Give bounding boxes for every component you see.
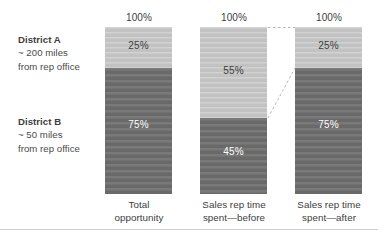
annotation-district-a-line2: ~ 200 miles	[18, 46, 104, 59]
annotation-district-a-line3: from rep office	[18, 60, 104, 73]
bar-caption-1-line1: Total	[91, 198, 187, 211]
bar-caption-2-line2: spent—before	[186, 211, 282, 224]
bar-2-label-district-b: 45%	[200, 146, 267, 157]
bar-caption-1: Total opportunity	[91, 198, 187, 224]
bar-total-label-2: 100%	[194, 12, 274, 23]
annotation-district-b-line2: ~ 50 miles	[18, 128, 104, 141]
bar-caption-3: Sales rep time spent—after	[281, 198, 377, 224]
bar-caption-2-line1: Sales rep time	[186, 198, 282, 211]
bar-1-label-district-a: 25%	[105, 40, 172, 51]
bar-column-sales-rep-time-before: 100% 55% 45% Sales rep time spent—before	[200, 0, 268, 238]
bar-caption-2: Sales rep time spent—before	[186, 198, 282, 224]
annotation-district-b-line3: from rep office	[18, 142, 104, 155]
bar-total-label-3: 100%	[289, 12, 369, 23]
bar-3-segment-district-a: 25%	[295, 27, 362, 68]
bar-column-total-opportunity: 100% 25% 75% Total opportunity	[105, 0, 173, 238]
bar-3-label-district-b: 75%	[295, 119, 362, 130]
annotation-district-b-lead: District B	[18, 115, 104, 128]
footer-divider	[0, 229, 378, 230]
bar-1-label-district-b: 75%	[105, 119, 172, 130]
bar-total-label-1: 100%	[99, 12, 179, 23]
connector-split-line	[268, 68, 295, 118]
bar-caption-3-line2: spent—after	[281, 211, 377, 224]
bar-column-sales-rep-time-after: 100% 25% 75% Sales rep time spent—after	[295, 0, 363, 238]
bar-caption-3-line1: Sales rep time	[281, 198, 377, 211]
bar-3-label-district-a: 25%	[295, 40, 362, 51]
bar-caption-1-line2: opportunity	[91, 211, 187, 224]
stacked-bar-3: 25% 75%	[295, 27, 362, 194]
bar-2-label-district-a: 55%	[200, 65, 267, 76]
bar-2-segment-district-b: 45%	[200, 118, 267, 194]
annotation-district-a: District A ~ 200 miles from rep office	[18, 33, 104, 73]
bar-1-segment-district-b: 75%	[105, 68, 172, 194]
annotation-district-a-lead: District A	[18, 33, 104, 46]
stacked-bar-1: 25% 75%	[105, 27, 172, 194]
annotation-district-b: District B ~ 50 miles from rep office	[18, 115, 104, 155]
bar-2-segment-district-a: 55%	[200, 27, 267, 118]
chart-canvas: District A ~ 200 miles from rep office D…	[0, 0, 378, 238]
bar-3-segment-district-b: 75%	[295, 68, 362, 194]
bar-1-segment-district-a: 25%	[105, 27, 172, 68]
stacked-bar-2: 55% 45%	[200, 27, 267, 194]
